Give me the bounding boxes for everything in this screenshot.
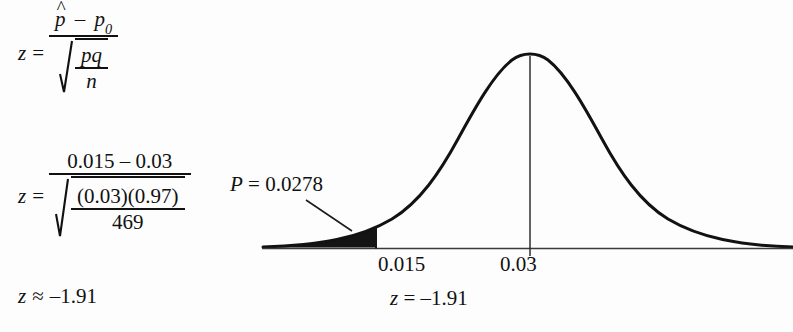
z-symbol: z [390, 286, 398, 310]
normal-curve-figure [0, 0, 793, 332]
p-value-text: = 0.0278 [248, 172, 323, 196]
axis-z-annotation: z = –1.91 [390, 286, 468, 311]
shaded-tail-region [263, 227, 376, 248]
axis-tick-label-0015: 0.015 [378, 252, 425, 277]
z-value-text: = –1.91 [403, 286, 467, 310]
figure-canvas: z = p ^ – p0 [0, 0, 793, 332]
p-value-leader-line [306, 200, 352, 231]
axis-tick-label-003: 0.03 [500, 252, 537, 277]
p-value-annotation: P = 0.0278 [230, 172, 323, 197]
p-symbol: P [230, 172, 243, 196]
normal-distribution-curve [263, 54, 793, 247]
